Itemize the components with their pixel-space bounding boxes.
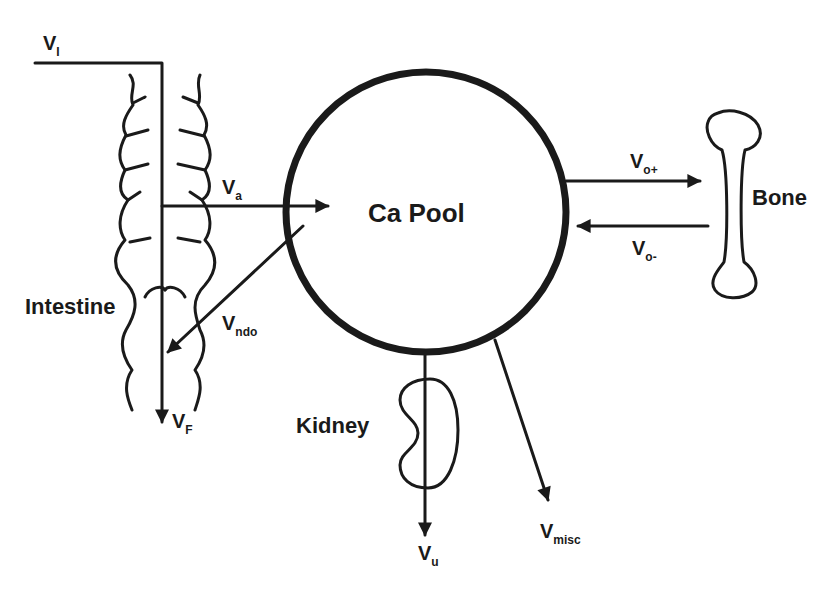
intestine-label: Intestine: [25, 294, 115, 319]
misc-loss-arrow: [495, 340, 548, 500]
diagram-canvas: Ca Pool Intestine VI VF Va Vndo Bone Vo+…: [0, 0, 837, 596]
absorption-flux-label: Va: [222, 176, 242, 203]
bone-resorption-flux-label: Vo-: [632, 237, 657, 264]
urinary-flux-label: Vu: [418, 542, 439, 569]
bone-deposition-flux-label: Vo+: [630, 150, 658, 177]
ca-pool-label: Ca Pool: [368, 198, 465, 228]
bone-label: Bone: [752, 185, 807, 210]
intake-flux-label: VI: [43, 32, 60, 59]
kidney-label: Kidney: [296, 413, 370, 438]
misc-flux-label: Vmisc: [540, 520, 581, 547]
fecal-flux-label: VF: [172, 410, 193, 437]
endogenous-flux-label: Vndo: [222, 312, 257, 339]
intestine-shape: [116, 75, 215, 410]
intake-line: [35, 63, 162, 422]
kidney-shape: [400, 379, 458, 488]
calcium-flux-diagram: Ca Pool Intestine VI VF Va Vndo Bone Vo+…: [0, 0, 837, 596]
